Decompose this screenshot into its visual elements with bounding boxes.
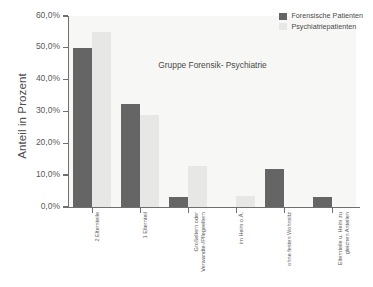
y-tick-mark — [63, 206, 68, 207]
y-tick-label: 30,0% — [36, 105, 60, 115]
bar — [140, 115, 159, 207]
x-tick-label: ohne festen Wohnsitz — [286, 212, 293, 287]
bar — [236, 196, 255, 207]
x-tick-label: Großeltern oder Verwandte-/Pflegeeltern — [193, 212, 206, 287]
y-tick-mark — [63, 47, 68, 48]
plot-area: Gruppe Forensik- Psychiatrie — [68, 16, 356, 207]
y-tick-label: 0,0% — [41, 201, 60, 211]
y-tick-mark — [63, 143, 68, 144]
bar — [169, 197, 188, 207]
y-tick-mark — [63, 15, 68, 16]
bar — [265, 169, 284, 207]
x-tick-label: Elternteile u. Heim zu gleichen Anteilen — [337, 212, 350, 287]
y-tick-mark — [63, 79, 68, 80]
bar — [188, 166, 207, 207]
x-tick-mark — [236, 208, 237, 213]
bar — [313, 197, 332, 207]
legend-label: Psychiatriepatienten — [291, 22, 356, 33]
x-tick-mark — [188, 208, 189, 213]
legend-item: Psychiatriepatienten — [279, 22, 363, 33]
x-tick-label: 1 Elternteil — [142, 212, 149, 287]
bar-chart: Anteil in Prozent Gruppe Forensik- Psych… — [0, 0, 373, 287]
bar — [92, 32, 111, 207]
x-tick-label: 2 Elternteile — [94, 212, 101, 287]
y-tick-label: 20,0% — [36, 137, 60, 147]
y-tick-mark — [63, 111, 68, 112]
bar — [121, 104, 140, 207]
bar — [73, 48, 92, 207]
legend-label: Forensische Patienten — [291, 11, 363, 22]
y-tick-label: 40,0% — [36, 73, 60, 83]
legend: Forensische Patienten Psychiatriepatient… — [279, 11, 363, 32]
legend-swatch-icon — [279, 23, 287, 30]
x-tick-mark — [332, 208, 333, 213]
y-tick-label: 50,0% — [36, 41, 60, 51]
x-tick-label: im Heim o.Ä. — [238, 212, 245, 287]
legend-item: Forensische Patienten — [279, 11, 363, 22]
legend-swatch-icon — [279, 13, 287, 20]
y-axis-title: Anteil in Prozent — [16, 46, 28, 186]
y-tick-label: 60,0% — [36, 10, 60, 20]
chart-inner-title: Gruppe Forensik- Psychiatrie — [69, 60, 356, 70]
x-tick-mark — [284, 208, 285, 213]
x-tick-mark — [92, 208, 93, 213]
x-tick-mark — [140, 208, 141, 213]
y-tick-label: 10,0% — [36, 169, 60, 179]
y-tick-mark — [63, 174, 68, 175]
